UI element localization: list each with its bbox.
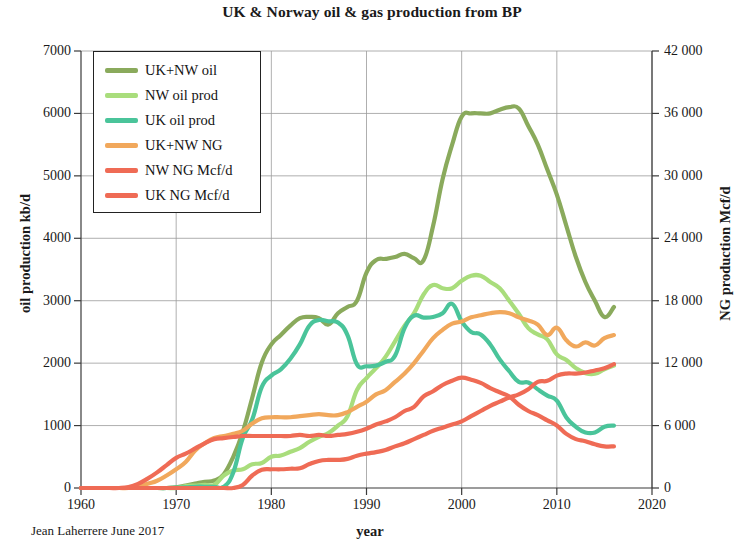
x-axis-tick-label: 1990 [337,498,397,512]
x-axis-tick-label: 1970 [146,498,206,512]
y-axis-left-tick-label: 6000 [9,106,71,120]
legend-item[interactable]: UK+NW oil [94,58,260,83]
y-axis-left-tick-label: 1000 [9,419,71,433]
y-axis-right-tick-label: 12 000 [664,356,744,370]
y-axis-right-tick-label: 42 000 [664,44,744,58]
y-axis-right-tick-label: 36 000 [664,106,744,120]
legend-color-swatch [105,118,138,123]
x-axis-tick-label: 1960 [51,498,111,512]
legend-item[interactable]: UK+NW NG [94,133,260,158]
legend-item-label: NW oil prod [145,87,218,104]
y-axis-left-tick-label: 4000 [9,231,71,245]
x-axis-tick-label: 2000 [432,498,492,512]
x-axis-tick-label: 2010 [527,498,587,512]
legend-item-label: UK oil prod [145,112,215,129]
y-axis-left-tick-label: 2000 [9,356,71,370]
y-axis-right-tick-label: 30 000 [664,169,744,183]
legend-color-swatch [105,168,138,173]
y-axis-right-tick-label: 18 000 [664,294,744,308]
series-line [81,378,614,488]
y-axis-right-tick-label: 0 [664,481,744,495]
y-axis-right-tick-label: 24 000 [664,231,744,245]
legend-color-swatch [105,143,138,148]
legend-item-label: UK NG Mcf/d [145,187,230,204]
y-axis-left-tick-label: 5000 [9,169,71,183]
legend-item[interactable]: UK NG Mcf/d [94,183,260,208]
legend-color-swatch [105,193,138,198]
x-axis-tick-label: 1980 [241,498,301,512]
legend-item[interactable]: NW NG Mcf/d [94,158,260,183]
x-axis-tick-label: 2020 [622,498,682,512]
y-axis-left-tick-label: 7000 [9,44,71,58]
legend-item[interactable]: NW oil prod [94,83,260,108]
legend-color-swatch [105,93,138,98]
y-axis-left-tick-label: 3000 [9,294,71,308]
legend-item-label: UK+NW NG [145,137,223,154]
legend-item-label: NW NG Mcf/d [145,162,233,179]
chart-legend: UK+NW oilNW oil prodUK oil prodUK+NW NGN… [93,51,261,213]
y-axis-left-tick-label: 0 [9,481,71,495]
legend-color-swatch [105,68,138,73]
legend-item-label: UK+NW oil [145,62,217,79]
chart-figure: UK & Norway oil & gas production from BP… [0,0,744,547]
y-axis-right-tick-label: 6 000 [664,419,744,433]
legend-item[interactable]: UK oil prod [94,108,260,133]
